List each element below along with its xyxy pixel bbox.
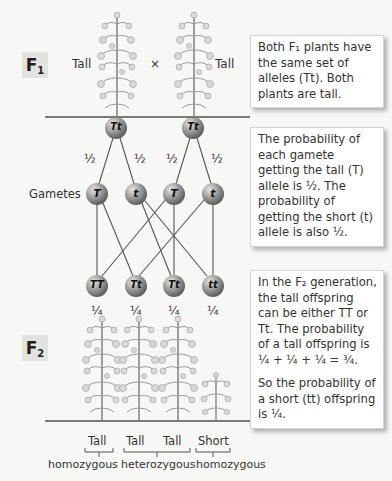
f2-label: F2 <box>22 335 48 361</box>
f2-plant-2 <box>120 316 159 420</box>
gamete-probability: ½ <box>84 152 96 166</box>
gamete-allele: t <box>202 187 224 200</box>
parent-genotype: Tt <box>105 121 127 132</box>
offspring-probability: ¼ <box>168 304 180 318</box>
offspring-genotype: Tt <box>163 279 185 290</box>
f1-plant-right <box>175 12 214 116</box>
gametes-label: Gametes <box>29 187 81 201</box>
group-label-homozygous-short: homozygous <box>196 458 266 471</box>
f1-note: Both F₁ plants have the same set of alle… <box>250 35 384 108</box>
offspring-phenotype: Tall <box>126 434 145 448</box>
f2-plant-1 <box>83 316 122 420</box>
offspring-probability: ¼ <box>207 304 219 318</box>
offspring-genotype: Tt <box>125 279 147 290</box>
cross-symbol: × <box>150 57 160 71</box>
offspring-phenotype: Tall <box>88 434 107 448</box>
f1-label: F1 <box>22 52 48 78</box>
gamete-probability: ½ <box>211 152 223 166</box>
group-label-heterozygous: heterozygous <box>121 458 196 471</box>
f2-ground-line <box>45 420 250 422</box>
f1-ground-line <box>45 116 250 118</box>
gamete-allele: T <box>163 187 185 200</box>
gamete-allele: T <box>86 187 108 200</box>
f2-plant-3 <box>159 316 198 420</box>
parent-genotype: Tt <box>182 121 204 132</box>
offspring-phenotype: Tall <box>163 434 182 448</box>
f1-left-phenotype: Tall <box>72 57 91 71</box>
offspring-genotype: TT <box>86 279 108 290</box>
f1-plant-left <box>98 12 137 116</box>
f2-plant-4 <box>201 373 231 421</box>
gametes-note: The probability of each gamete getting t… <box>250 127 384 247</box>
gamete-allele: t <box>125 187 147 200</box>
f1-right-phenotype: Tall <box>215 57 234 71</box>
offspring-probability: ¼ <box>130 304 142 318</box>
gamete-probability: ½ <box>166 152 178 166</box>
gamete-probability: ½ <box>134 152 146 166</box>
offspring-phenotype: Short <box>198 434 229 448</box>
offspring-probability: ¼ <box>91 304 103 318</box>
group-label-homozygous-tall: homozygous <box>48 458 118 471</box>
f2-note: In the F₂ generation, the tall offspring… <box>250 270 384 429</box>
offspring-genotype: tt <box>202 279 224 290</box>
